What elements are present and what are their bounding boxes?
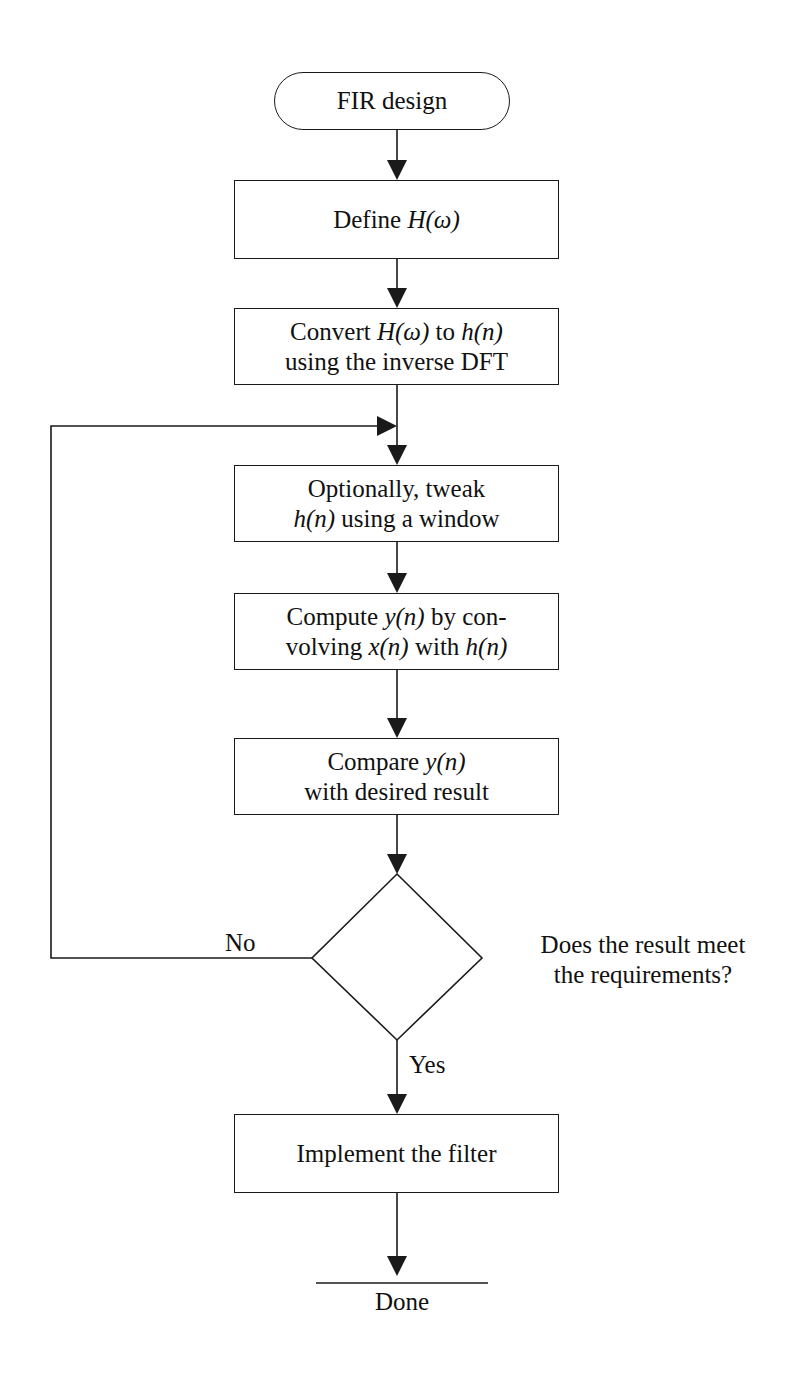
start-label: FIR design — [337, 86, 447, 116]
decision-line1: Does the result meet — [498, 930, 788, 960]
no-label: No — [225, 928, 256, 958]
implement-label: Implement the filter — [297, 1139, 497, 1169]
done-terminal: Done — [316, 1287, 488, 1317]
window-box: Optionally, tweak h(n) using a window — [234, 465, 559, 542]
decision-line2: the requirements? — [498, 960, 788, 990]
define-label: Define H(ω) — [333, 205, 460, 235]
compute-line1: Compute y(n) by con- — [286, 602, 506, 632]
start-terminal: FIR design — [274, 72, 510, 130]
compute-line2: volving x(n) with h(n) — [286, 632, 508, 662]
convert-box: Convert H(ω) to h(n) using the inverse D… — [234, 308, 559, 385]
window-line1: Optionally, tweak — [308, 474, 486, 504]
compare-box: Compare y(n) with desired result — [234, 738, 559, 815]
compare-line2: with desired result — [304, 777, 489, 807]
convert-line2: using the inverse DFT — [285, 347, 508, 377]
convert-line1: Convert H(ω) to h(n) — [290, 317, 503, 347]
window-line2: h(n) using a window — [293, 504, 499, 534]
implement-box: Implement the filter — [234, 1114, 559, 1193]
define-h-omega-box: Define H(ω) — [234, 180, 559, 259]
decision-question: Does the result meet the requirements? — [498, 930, 788, 990]
compare-line1: Compare y(n) — [327, 747, 465, 777]
yes-label: Yes — [409, 1050, 445, 1080]
compute-box: Compute y(n) by con- volving x(n) with h… — [234, 593, 559, 670]
